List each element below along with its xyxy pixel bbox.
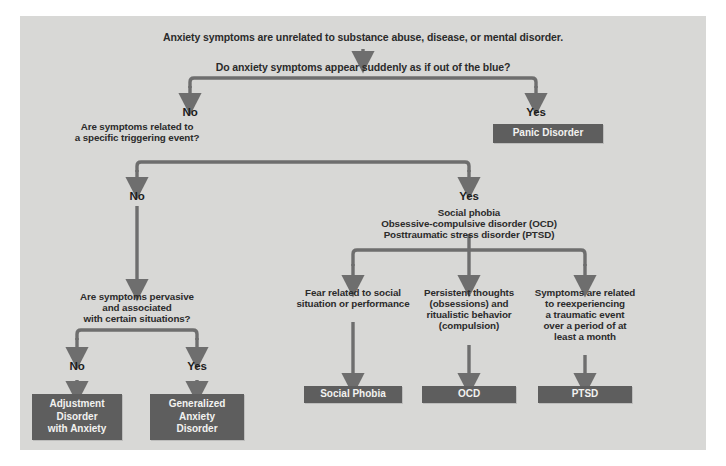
root-statement: Anxiety symptoms are unrelated to substa…: [163, 32, 563, 44]
box-social-phobia: Social Phobia: [304, 386, 402, 403]
label-q2-yes: Yes: [439, 190, 499, 203]
box-adjustment-disorder: Adjustment Disorder with Anxiety: [32, 394, 122, 440]
label-q2-no: No: [107, 190, 167, 203]
branch-ptsd-description: Symptoms are related to reexperiencing a…: [525, 288, 645, 343]
question-pervasive-symptoms: Are symptoms pervasive and associated wi…: [62, 292, 212, 325]
list-q2-yes-disorders: Social phobia Obsessive-compulsive disor…: [374, 208, 564, 241]
box-generalized-anxiety-disorder: Generalized Anxiety Disorder: [150, 394, 244, 440]
box-ocd: OCD: [422, 386, 516, 403]
question-sudden-onset: Do anxiety symptoms appear suddenly as i…: [188, 62, 538, 74]
branch-ocd-description: Persistent thoughts (obsessions) and rit…: [413, 288, 525, 332]
question-triggering-event: Are symptoms related to a specific trigg…: [62, 122, 212, 144]
diagram-canvas: Anxiety symptoms are unrelated to substa…: [0, 0, 726, 466]
box-ptsd: PTSD: [538, 386, 632, 403]
diagram-panel: [20, 16, 706, 450]
label-q1-no: No: [160, 106, 220, 119]
label-q3-no: No: [47, 360, 107, 373]
branch-social-description: Fear related to social situation or perf…: [293, 288, 413, 310]
label-q3-yes: Yes: [167, 360, 227, 373]
label-q1-yes: Yes: [506, 106, 566, 119]
box-panic-disorder: Panic Disorder: [493, 124, 603, 143]
